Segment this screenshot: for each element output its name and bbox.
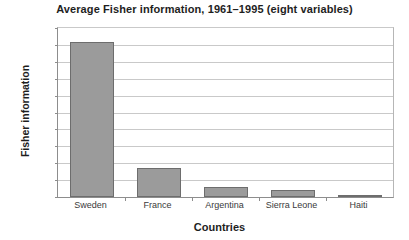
y-tick-mark (55, 197, 58, 198)
y-tick-mark (55, 113, 58, 114)
bar (70, 42, 114, 197)
bar (137, 168, 181, 197)
y-axis-title: Fisher information (19, 41, 31, 181)
y-tick-mark (55, 96, 58, 97)
bar-chart-figure: Average Fisher information, 1961–1995 (e… (0, 0, 409, 240)
chart-title: Average Fisher information, 1961–1995 (e… (0, 3, 409, 15)
y-tick-mark (55, 180, 58, 181)
bar (204, 187, 248, 197)
y-tick-mark (55, 62, 58, 63)
y-tick-mark (55, 45, 58, 46)
x-tick-label: Haiti (299, 200, 409, 210)
bar (338, 195, 382, 197)
plot-area: 00.511.522.533.544.55 (57, 27, 394, 198)
y-tick-mark (55, 146, 58, 147)
x-axis-title: Countries (47, 221, 392, 233)
bar (271, 190, 315, 197)
y-tick-mark (55, 28, 58, 29)
y-tick-mark (55, 163, 58, 164)
y-tick-mark (55, 79, 58, 80)
y-tick-mark (55, 129, 58, 130)
